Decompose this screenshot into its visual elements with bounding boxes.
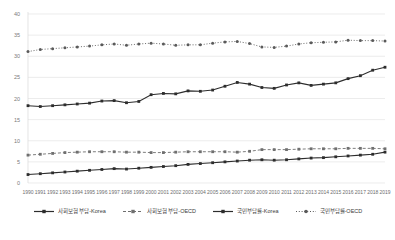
y-axis-tick-label: 25 [6,74,20,80]
series-line-2 [28,67,385,106]
series-marker-0 [224,160,227,163]
series-marker-0 [236,160,239,163]
series-marker-2 [297,81,300,84]
series-marker-3 [113,42,116,45]
y-axis-tick-label: 5 [6,159,20,165]
series-marker-3 [347,39,350,42]
series-marker-2 [100,100,103,103]
series-marker-2 [27,104,30,107]
series-marker-2 [174,92,177,95]
series-marker-0 [88,169,91,172]
series-marker-3 [39,48,42,51]
series-marker-1 [211,150,214,153]
series-line-1 [28,148,385,155]
series-marker-3 [236,40,239,43]
series-marker-2 [260,86,263,89]
y-axis-tick-label: 30 [6,53,20,59]
series-marker-3 [359,39,362,42]
series-marker-2 [285,84,288,87]
series-marker-2 [39,105,42,108]
legend-entry-3[interactable]: 국민부담률-OECD [295,208,363,215]
series-marker-0 [273,159,276,162]
series-marker-2 [162,92,165,95]
series-marker-2 [64,103,67,106]
series-marker-3 [371,39,374,42]
series-marker-2 [76,103,79,106]
series-marker-2 [248,83,251,86]
legend-entry-1[interactable]: 사회보험 부담-OECD [122,208,196,215]
series-marker-3 [260,45,263,48]
series-marker-0 [51,171,54,174]
series-marker-3 [76,45,79,48]
series-marker-1 [137,151,140,154]
series-marker-1 [27,154,30,157]
series-marker-1 [371,147,374,150]
series-marker-1 [76,151,79,154]
y-axis-tick-label: 10 [6,138,20,144]
series-marker-0 [100,168,103,171]
series-marker-1 [113,150,116,153]
series-marker-0 [162,165,165,168]
series-marker-0 [347,155,350,158]
series-marker-0 [39,172,42,175]
series-marker-1 [273,148,276,151]
legend-label: 사회보험 부담-Korea [58,208,106,215]
series-marker-2 [224,85,227,88]
series-marker-0 [322,156,325,159]
series-marker-1 [174,151,177,154]
legend-sample-icon [295,208,317,215]
series-marker-0 [150,166,153,169]
legend-sample-icon [212,208,234,215]
series-marker-1 [334,147,337,150]
series-marker-3 [51,47,54,50]
series-marker-2 [310,84,313,87]
series-marker-0 [285,158,288,161]
series-marker-3 [223,40,226,43]
chart-legend: 사회보험 부담-Korea사회보험 부담-OECD국민부담률-Korea국민부담… [0,203,395,219]
series-marker-0 [199,162,202,165]
series-marker-1 [359,147,362,150]
series-marker-2 [150,93,153,96]
series-marker-1 [150,151,153,154]
series-line-3 [28,40,385,51]
series-marker-3 [63,46,66,49]
series-marker-2 [236,81,239,84]
series-marker-3 [88,45,91,48]
series-marker-2 [371,69,374,72]
series-marker-2 [199,90,202,93]
series-marker-3 [125,44,128,47]
series-marker-3 [150,42,153,45]
series-marker-1 [187,150,190,153]
x-axis-tick-label: 2019 [375,189,395,195]
series-marker-1 [297,148,300,151]
legend-sample-icon [122,208,144,215]
series-marker-3 [162,42,165,45]
legend-label: 사회보험 부담-OECD [147,208,196,215]
series-marker-2 [334,81,337,84]
series-marker-3 [248,42,251,45]
series-marker-2 [273,87,276,90]
series-marker-1 [285,148,288,151]
series-line-0 [28,152,385,174]
series-marker-3 [100,43,103,46]
series-marker-2 [322,83,325,86]
series-marker-1 [224,150,227,153]
series-marker-3 [211,42,214,45]
series-marker-3 [285,45,288,48]
series-marker-2 [211,89,214,92]
series-marker-0 [113,167,116,170]
y-axis-tick-label: 15 [6,117,20,123]
series-marker-1 [51,152,54,155]
series-marker-0 [76,170,79,173]
series-marker-0 [125,168,128,171]
series-marker-3 [322,41,325,44]
legend-entry-2[interactable]: 국민부담률-Korea [212,208,279,215]
legend-entry-0[interactable]: 사회보험 부담-Korea [33,208,106,215]
series-marker-3 [334,40,337,43]
series-marker-1 [162,151,165,154]
series-marker-2 [88,102,91,105]
series-marker-0 [371,153,374,156]
series-marker-1 [322,147,325,150]
series-marker-0 [334,155,337,158]
series-marker-0 [310,157,313,160]
